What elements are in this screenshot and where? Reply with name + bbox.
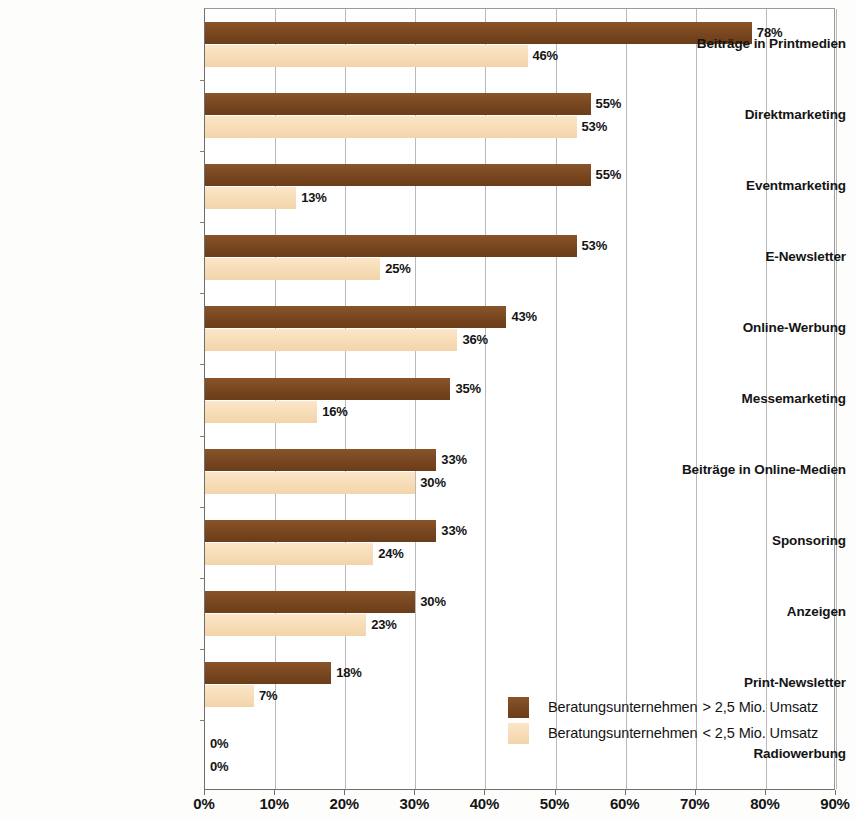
category-label: E-Newsletter [659, 250, 855, 264]
category-label: Direktmarketing [659, 108, 855, 122]
bar-value-label: 36% [462, 333, 487, 346]
x-axis-tick-label: 40% [454, 795, 514, 812]
legend-swatch-high-revenue [508, 697, 529, 718]
bar [205, 685, 254, 707]
bar [205, 614, 366, 636]
bar-value-label: 7% [259, 689, 277, 702]
bar-value-label: 43% [511, 310, 536, 323]
bar-value-label: 46% [533, 49, 558, 62]
bar [205, 401, 317, 423]
bar-value-label: 16% [322, 405, 347, 418]
bar-value-label: 30% [420, 595, 445, 608]
category-label: Anzeigen [659, 605, 855, 619]
bar-value-label: 55% [596, 168, 621, 181]
bar [205, 45, 528, 67]
bar-value-label: 30% [420, 476, 445, 489]
x-axis-tick-label: 20% [314, 795, 374, 812]
y-axis-tick [200, 364, 205, 365]
bar-value-label: 25% [385, 262, 410, 275]
legend: Beratungsunternehmen> 2,5 Mio. Umsatz Be… [508, 694, 818, 746]
category-label: Eventmarketing [659, 179, 855, 193]
category-label: Messemarketing [659, 392, 855, 406]
legend-item-high: Beratungsunternehmen> 2,5 Mio. Umsatz [508, 694, 818, 720]
bar [205, 235, 577, 257]
x-axis-tick-label: 90% [805, 795, 855, 812]
bar [205, 329, 457, 351]
bar [205, 543, 373, 565]
bar-value-label: 33% [441, 524, 466, 537]
bar [205, 93, 591, 115]
bar [205, 164, 591, 186]
y-axis-tick [200, 578, 205, 579]
bar-value-label: 13% [301, 191, 326, 204]
category-label: Print-Newsletter [659, 676, 855, 690]
category-label: Beiträge in Online-Medien [659, 463, 855, 477]
bar-value-label: 0% [210, 737, 228, 750]
y-axis-tick [200, 293, 205, 294]
y-axis-tick [200, 720, 205, 721]
bar [205, 449, 436, 471]
bar [205, 116, 577, 138]
bar [205, 472, 415, 494]
y-axis-tick [200, 649, 205, 650]
bar [205, 591, 415, 613]
bar-value-label: 18% [336, 666, 361, 679]
x-axis-tick-label: 30% [384, 795, 444, 812]
legend-label-low-revenue: Beratungsunternehmen< 2,5 Mio. Umsatz [548, 725, 818, 741]
gridline [626, 9, 627, 789]
x-axis-tick-label: 70% [665, 795, 725, 812]
y-axis-tick [200, 507, 205, 508]
category-label: Radiowerbung [659, 747, 855, 761]
bar-value-label: 24% [378, 547, 403, 560]
x-axis-tick-label: 80% [735, 795, 795, 812]
y-axis-tick [200, 436, 205, 437]
legend-label-high-revenue: Beratungsunternehmen> 2,5 Mio. Umsatz [548, 699, 818, 715]
bar [205, 187, 296, 209]
bar [205, 258, 380, 280]
y-axis-tick [200, 222, 205, 223]
bar-value-label: 78% [757, 26, 782, 39]
x-axis-tick-label: 10% [244, 795, 304, 812]
y-axis-tick [200, 151, 205, 152]
bar [205, 378, 450, 400]
category-label: Online-Werbung [659, 321, 855, 335]
x-axis-tick-label: 50% [525, 795, 585, 812]
bar-value-label: 35% [455, 382, 480, 395]
y-axis-tick [200, 80, 205, 81]
bar [205, 662, 331, 684]
legend-swatch-low-revenue [508, 723, 529, 744]
bar-value-label: 0% [210, 760, 228, 773]
x-axis-tick-label: 0% [174, 795, 234, 812]
legend-item-low: Beratungsunternehmen< 2,5 Mio. Umsatz [508, 720, 818, 746]
bar [205, 306, 506, 328]
bar-value-label: 23% [371, 618, 396, 631]
bar-value-label: 53% [582, 120, 607, 133]
bar-value-label: 33% [441, 453, 466, 466]
bar-value-label: 53% [582, 239, 607, 252]
bar-value-label: 55% [596, 97, 621, 110]
horizontal-bar-chart: 0%10%20%30%40%50%60%70%80%90% Beiträge i… [0, 0, 855, 819]
category-label: Sponsoring [659, 534, 855, 548]
x-axis-tick-label: 60% [595, 795, 655, 812]
bar [205, 520, 436, 542]
